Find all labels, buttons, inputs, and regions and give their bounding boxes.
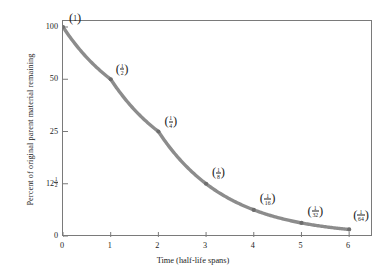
point-label: (12) <box>116 62 129 77</box>
decay-curve-svg <box>63 21 373 237</box>
y-tick-label: 1212 <box>46 177 58 189</box>
decay-curve <box>63 27 349 229</box>
x-tick-label: 6 <box>346 241 350 250</box>
y-tick-label: 0 <box>54 231 58 240</box>
x-tick-label: 3 <box>203 241 207 250</box>
point-label: (116) <box>260 191 276 206</box>
x-axis-title: Time (half-life spans) <box>0 256 386 265</box>
x-tick-label: 0 <box>60 241 64 250</box>
data-point <box>347 227 351 231</box>
y-axis-tick-labels: 100502512120 <box>0 20 58 236</box>
x-tick-label: 2 <box>155 241 159 250</box>
half-life-decay-chart: Percent of original parent material rema… <box>0 0 386 278</box>
data-point <box>299 221 303 225</box>
point-label: (132) <box>307 203 323 218</box>
data-point <box>204 182 208 186</box>
point-label: (1) <box>69 11 81 26</box>
point-label: (164) <box>353 208 369 223</box>
y-tick-label: 50 <box>50 74 58 83</box>
point-label: (18) <box>212 165 225 180</box>
x-tick-label: 4 <box>251 241 255 250</box>
y-tick-label: 25 <box>50 126 58 135</box>
data-point <box>109 77 113 81</box>
point-label: (14) <box>164 114 177 129</box>
x-tick-label: 1 <box>108 241 112 250</box>
y-tick-label: 100 <box>46 22 58 31</box>
data-point <box>156 129 160 133</box>
x-axis-tick-labels: 0123456 <box>62 241 372 255</box>
data-point <box>252 208 256 212</box>
x-tick-label: 5 <box>298 241 302 250</box>
plot-area <box>62 20 372 236</box>
